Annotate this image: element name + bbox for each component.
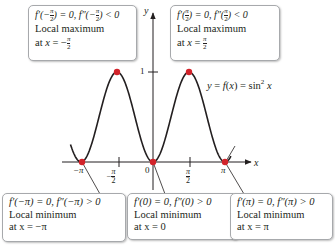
x-tick-label-neg-half-pi: −π2 (106, 168, 115, 185)
annotation-type: Local minimum (237, 209, 327, 222)
annotation-condition: f′(0) = 0, f″(0) > 0 (134, 196, 233, 209)
annotation-location: at x = −π (9, 221, 120, 234)
y-tick-label-1: 1 (140, 66, 145, 76)
point-min-zero (150, 159, 156, 165)
x-axis-label: x (254, 157, 258, 168)
annotation-location: at x = π (237, 221, 327, 234)
leader-min-neg-pi (82, 162, 100, 194)
annotation-condition: f′(−π2) = 0, f″(−π2) < 0 (35, 8, 131, 23)
annotation-condition: f′(π2) = 0, f″(π2) < 0 (177, 8, 274, 23)
annotation-location: at x = π2 (177, 36, 274, 51)
annotation-min-neg-pi: f′(−π) = 0, f″(−π) > 0 Local minimum at … (2, 193, 126, 242)
x-tick-label-pi: π (221, 165, 226, 175)
annotation-type: Local minimum (9, 209, 120, 222)
point-max-half-pi (186, 69, 192, 75)
x-tick-label-half-pi: π2 (186, 168, 190, 185)
annotation-condition: f′(−π) = 0, f″(−π) > 0 (9, 196, 120, 209)
point-max-neg-half-pi (114, 69, 120, 75)
annotation-type: Local maximum (177, 23, 274, 36)
leader-min-zero (153, 162, 165, 194)
x-tick-label-neg-pi: −π (73, 165, 84, 175)
leader-min-pi (225, 162, 244, 194)
annotation-condition: f′(π) = 0, f″(π) > 0 (237, 196, 327, 209)
annotation-location: at x = −π2 (35, 36, 131, 51)
annotation-type: Local maximum (35, 23, 131, 36)
annotation-min-pi: f′(π) = 0, f″(π) > 0 Local minimum at x … (230, 193, 333, 240)
function-label: y = f(x) = sin2 x (207, 78, 272, 91)
annotation-location: at x = 0 (134, 221, 233, 234)
y-axis-label: y (144, 5, 148, 16)
annotation-type: Local minimum (134, 209, 233, 222)
annotation-min-zero: f′(0) = 0, f″(0) > 0 Local minimum at x … (127, 193, 239, 240)
annotation-max-neg-half-pi: f′(−π2) = 0, f″(−π2) < 0 Local maximum a… (28, 5, 137, 61)
x-tick-label-zero: 0 (145, 165, 150, 175)
annotation-max-half-pi: f′(π2) = 0, f″(π2) < 0 Local maximum at … (170, 5, 280, 61)
